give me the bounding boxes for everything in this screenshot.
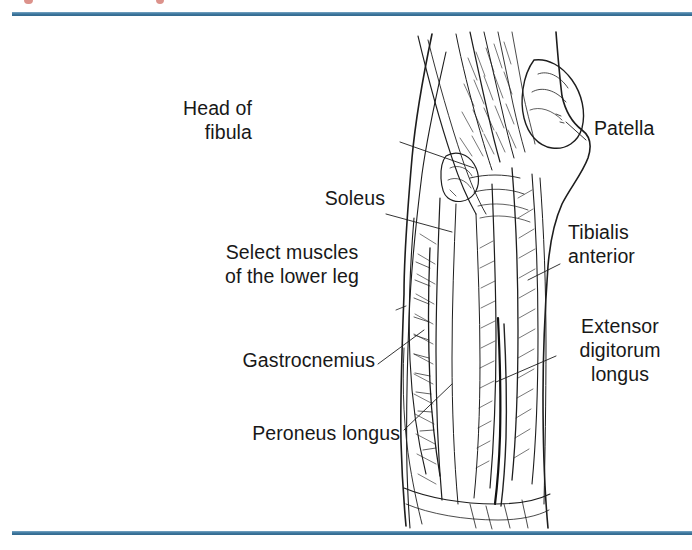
label-extensor-digitorum-longus: Extensor digitorum longus [564,314,676,386]
label-gastrocnemius: Gastrocnemius [243,348,375,372]
figure-caption: Select muscles of the lower leg [192,240,392,288]
label-patella: Patella [594,116,654,140]
label-soleus: Soleus [325,186,385,210]
figure-page: Head of fibula Patella Soleus Tibialis a… [0,0,692,550]
figure-caption-line1: Select muscles [192,240,392,264]
label-head-of-fibula-line1: Head of [183,96,252,120]
label-tibialis-anterior-line2: anterior [568,244,635,268]
label-gastrocnemius-line1: Gastrocnemius [243,348,375,372]
label-tibialis-anterior-line1: Tibialis [568,220,635,244]
label-tibialis-anterior: Tibialis anterior [568,220,635,268]
label-extensor-digitorum-longus-line2: digitorum [564,338,676,362]
top-divider-rule [12,12,692,16]
label-head-of-fibula: Head of fibula [183,96,252,144]
label-extensor-digitorum-longus-line1: Extensor [564,314,676,338]
clipped-heading-mark-left [24,0,33,4]
label-patella-line1: Patella [594,116,654,140]
figure-caption-line2: of the lower leg [192,264,392,288]
bottom-divider-rule [12,531,692,535]
label-peroneus-longus-line1: Peroneus longus [252,421,400,445]
label-head-of-fibula-line2: fibula [183,120,252,144]
label-peroneus-longus: Peroneus longus [252,421,400,445]
label-soleus-line1: Soleus [325,186,385,210]
label-extensor-digitorum-longus-line3: longus [564,362,676,386]
clipped-heading-mark-right [156,0,164,4]
